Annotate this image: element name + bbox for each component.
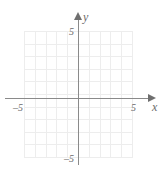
x-axis-tick-label-positive-5: 5	[131, 103, 136, 113]
y-axis-label: y	[83, 11, 88, 23]
y-axis-line	[78, 16, 79, 165]
y-axis-arrow-icon	[74, 12, 82, 20]
x-axis-tick-label-negative-5: –5	[13, 103, 23, 113]
coordinate-plane-figure: y x 5 –5 5 –5	[0, 0, 161, 171]
y-axis-tick-label-positive-5: 5	[69, 27, 74, 37]
y-axis-tick-label-negative-5: –5	[64, 154, 74, 164]
x-axis-label: x	[152, 101, 157, 113]
